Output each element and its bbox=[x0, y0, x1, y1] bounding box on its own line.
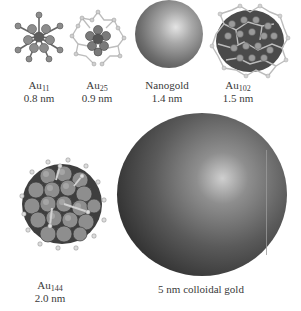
au11-formula: Au11 bbox=[24, 79, 55, 92]
au102-cluster-image bbox=[210, 4, 290, 78]
au102-size: 1.5 nm bbox=[223, 92, 254, 105]
au144-label: Au144 2.0 nm bbox=[35, 279, 66, 305]
au102-formula: Au102 bbox=[223, 79, 254, 92]
nanogold-sphere-image bbox=[135, 0, 203, 68]
nanogold-label: Nanogold 1.4 nm bbox=[145, 79, 188, 105]
au11-label: Au11 0.8 nm bbox=[24, 79, 55, 105]
nanogold-name: Nanogold bbox=[145, 79, 188, 92]
au25-label: Au25 0.9 nm bbox=[82, 79, 113, 105]
colloidal-gold-sphere-image bbox=[117, 113, 287, 276]
au25-cluster-image bbox=[70, 10, 126, 66]
au144-size: 2.0 nm bbox=[35, 292, 66, 305]
au102-label: Au102 1.5 nm bbox=[223, 79, 254, 105]
sphere-scan-line bbox=[266, 150, 267, 255]
nanogold-size: 1.4 nm bbox=[145, 92, 188, 105]
au11-size: 0.8 nm bbox=[24, 92, 55, 105]
colloidal-gold-name: 5 nm colloidal gold bbox=[158, 283, 244, 296]
au11-cluster-image bbox=[14, 12, 64, 62]
au144-formula: Au144 bbox=[35, 279, 66, 292]
au25-formula: Au25 bbox=[82, 79, 113, 92]
nanoparticle-size-figure: Au11 0.8 nm Au25 0.9 nm Nanogold 1.4 nm bbox=[0, 0, 301, 311]
colloidal-gold-label: 5 nm colloidal gold bbox=[158, 283, 244, 296]
au144-cluster-image bbox=[14, 156, 110, 252]
au25-size: 0.9 nm bbox=[82, 92, 113, 105]
